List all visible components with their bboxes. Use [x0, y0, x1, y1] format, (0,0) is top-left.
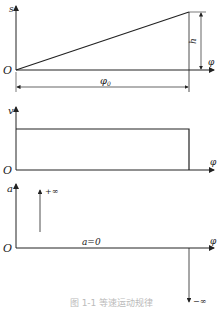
phi-label: φ: [208, 57, 215, 67]
velocity-line: [16, 129, 189, 170]
displacement-line: [16, 12, 189, 70]
origin-label-3: O: [3, 242, 12, 255]
h-label: h: [188, 38, 198, 44]
a-label: a: [7, 183, 13, 194]
phi-label-3: φ: [210, 236, 217, 246]
v-label: v: [8, 105, 14, 116]
a-zero-label: a=0: [82, 237, 101, 247]
s-label: s: [9, 4, 14, 14]
displacement-panel: [16, 6, 214, 92]
origin-label: O: [3, 64, 12, 77]
acceleration-panel: [16, 184, 214, 302]
origin-label-2: O: [3, 164, 12, 177]
phi0-subscript: 0: [107, 80, 111, 87]
phi0-label: φ: [100, 75, 107, 86]
motion-diagram: s O φ h φ 0 v O φ a O φ a=0 +∞ −∞: [0, 0, 223, 311]
phi-label-2: φ: [210, 157, 217, 167]
velocity-panel: [16, 107, 214, 170]
figure-caption: 图 1-1 等速运动规律: [0, 296, 223, 309]
plus-inf-label: +∞: [45, 187, 58, 196]
